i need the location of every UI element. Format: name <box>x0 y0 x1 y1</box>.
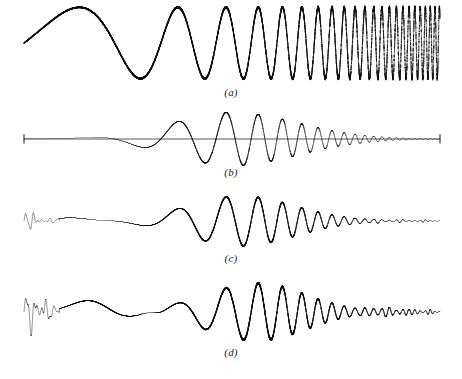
panel-b-caption: (b) <box>0 166 462 178</box>
waveform-trace <box>24 282 440 341</box>
panel-b <box>0 108 462 170</box>
panel-c-caption: (c) <box>0 252 462 264</box>
waveform-trace <box>24 5 440 80</box>
panel-c <box>0 190 462 252</box>
panel-c-plot <box>0 190 462 252</box>
panel-d-plot <box>0 278 462 348</box>
panel-a-caption: (a) <box>0 86 462 98</box>
panel-d-caption: (d) <box>0 346 462 358</box>
panel-d <box>0 278 462 348</box>
panel-b-plot <box>0 108 462 170</box>
panel-a-plot <box>0 0 462 88</box>
waveform-trace <box>24 196 440 247</box>
panel-a <box>0 0 462 88</box>
waveform-figure: (a) (b) (c) (d) <box>0 0 462 379</box>
